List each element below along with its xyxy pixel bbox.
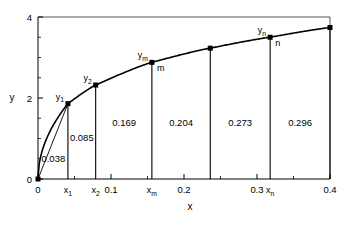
data-point-marker: [268, 35, 273, 40]
x-tick-label: 0.4: [323, 184, 336, 195]
data-point-marker-origin: [36, 177, 41, 182]
x-tick-label: 0.3: [250, 184, 263, 195]
y-tick-label: 0: [27, 174, 32, 185]
x-tick-label: 0: [35, 184, 40, 195]
area-value-label: 0.273: [228, 117, 252, 128]
area-value-label: 0.085: [70, 132, 94, 143]
area-value-label: 0.038: [41, 153, 65, 164]
y-tick-label: 2: [27, 93, 32, 104]
trapezoidal-integration-chart: 00.10.20.30.4024xyy1y2ymmynnx1x2xmxn0.03…: [0, 0, 347, 225]
point-marker-label-y_m: m: [157, 63, 165, 73]
data-point-marker: [93, 83, 98, 88]
area-value-label: 0.169: [112, 117, 136, 128]
y-axis-title: y: [10, 92, 15, 103]
area-value-label: 0.296: [288, 117, 312, 128]
data-point-marker: [149, 60, 154, 65]
y-tick-label: 4: [27, 12, 32, 23]
chart-background: [0, 0, 347, 225]
data-point-marker: [65, 101, 70, 106]
x-axis-title: x: [188, 201, 193, 212]
data-point-marker: [328, 25, 333, 30]
x-tick-label: 0.1: [104, 184, 117, 195]
data-point-marker: [208, 46, 213, 51]
point-marker-label-y_n: n: [275, 38, 280, 48]
area-value-label: 0.204: [169, 117, 193, 128]
chart-canvas: 00.10.20.30.4024xyy1y2ymmynnx1x2xmxn0.03…: [0, 0, 347, 225]
x-tick-label: 0.2: [177, 184, 190, 195]
